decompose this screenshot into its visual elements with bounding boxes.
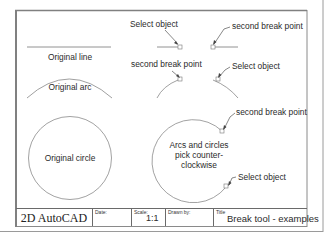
line-pick-marker-2 [211,45,215,49]
leader-line-break [214,27,230,44]
label-original-arc: Original arc [49,82,92,92]
arc-pick-marker-1 [178,77,182,81]
arc-pick-marker-2 [216,77,220,81]
label-line-select-object: Select object [130,19,178,29]
title-block-date-label: Date: [95,209,107,215]
leader-arrow-6 [228,181,232,186]
label-arc-select-object: Select object [232,61,280,71]
broken-arc-left [157,80,178,98]
title-block-drawn-by-label: Drawn by: [168,209,191,215]
label-circle-select-object: Select object [238,172,286,182]
drawing-border [16,11,307,227]
broken-arc-right [213,80,238,98]
title-block-company: 2D AutoCAD [21,211,87,225]
drawing-sheet: Original line Original arc Original circ… [0,0,334,246]
title-block-scale-value: 1:1 [146,213,159,223]
label-arc-second-break-point: second break point [131,59,202,69]
label-original-circle: Original circle [45,153,96,163]
title-block-title-value: Break tool - examples [227,214,319,224]
drawing-geometry [0,0,334,246]
line-pick-marker-1 [178,45,182,49]
circle-pick-marker-2 [224,184,228,188]
label-circle-note: Arcs and circles pick counter-clockwise [168,140,230,170]
label-line-second-break-point: second break point [232,21,303,31]
title-block-title-label: Title [216,209,225,215]
label-circle-second-break-point: second break point [236,107,307,117]
label-original-line: Original line [48,52,92,62]
